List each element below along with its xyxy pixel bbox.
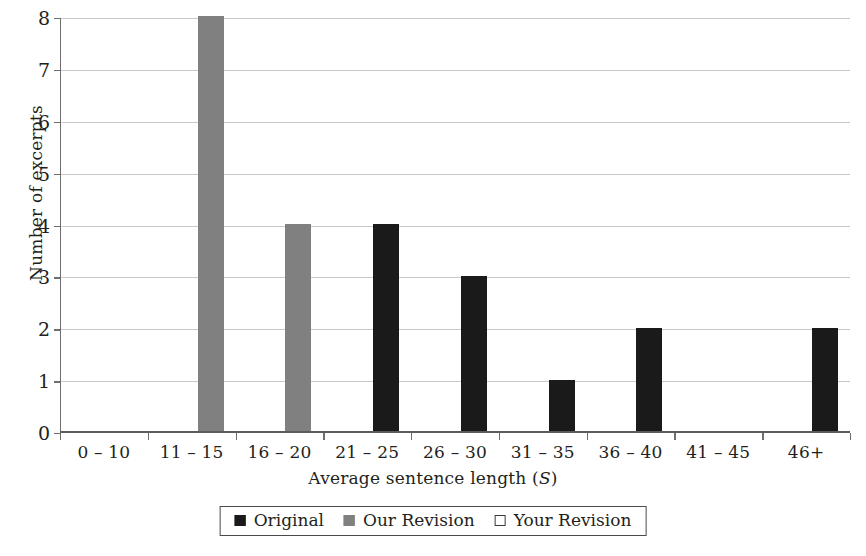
bar: [636, 328, 662, 432]
bar: [812, 328, 838, 432]
legend-label: Your Revision: [514, 512, 632, 529]
legend-entry: Our Revision: [344, 512, 475, 529]
x-axis-tick-label: 36 – 40: [599, 444, 663, 461]
bar: [198, 16, 224, 431]
y-axis-tick-label: 7: [38, 60, 50, 79]
gridline: [60, 329, 850, 330]
legend: OriginalOur RevisionYour Revision: [220, 506, 647, 536]
y-axis-line: [60, 18, 61, 433]
legend-entry: Your Revision: [495, 512, 632, 529]
bar: [285, 224, 311, 432]
bar: [549, 380, 575, 432]
x-axis-title-tail: ): [551, 468, 558, 488]
gridline: [60, 122, 850, 123]
gridline: [60, 381, 850, 382]
x-axis-line: [60, 431, 850, 433]
y-axis-tick-label: 1: [38, 372, 50, 391]
x-axis-tick-label: 0 – 10: [77, 444, 130, 461]
bar-chart-figure: Number of excerpts 012345678 0 – 1011 – …: [0, 0, 866, 556]
x-axis-tick-mark: [762, 433, 763, 440]
y-axis-tick-label: 5: [38, 164, 50, 183]
x-axis-tick-label: 16 – 20: [247, 444, 311, 461]
y-axis-tick-label: 2: [38, 320, 50, 339]
legend-label: Our Revision: [363, 512, 475, 529]
x-axis-tick-mark: [411, 433, 412, 440]
y-axis-tick-label: 3: [38, 268, 50, 287]
legend-swatch-icon: [344, 515, 355, 526]
gridline: [60, 277, 850, 278]
legend-swatch-icon: [235, 515, 246, 526]
y-axis-tick-label: 4: [38, 216, 50, 235]
y-axis-tick-label: 6: [38, 112, 50, 131]
x-axis-tick-mark: [236, 433, 237, 440]
x-axis-tick-mark: [323, 433, 324, 440]
x-axis-tick-mark: [850, 433, 851, 440]
x-axis-tick-mark: [148, 433, 149, 440]
bar: [461, 276, 487, 432]
x-axis-tick-label: 46+: [788, 444, 824, 461]
legend-label: Original: [254, 512, 324, 529]
x-axis-title-variable: S: [539, 468, 551, 488]
x-axis-title: Average sentence length (S): [0, 468, 866, 488]
x-axis-tick-label: 21 – 25: [335, 444, 399, 461]
x-axis-title-text: Average sentence length (: [308, 468, 539, 488]
x-axis-tick-mark: [60, 433, 61, 440]
x-axis-tick-label: 11 – 15: [160, 444, 224, 461]
x-axis-tick-mark: [674, 433, 675, 440]
bar: [373, 224, 399, 432]
y-axis-tick-label: 0: [38, 424, 50, 443]
x-axis-tick-label: 31 – 35: [511, 444, 575, 461]
plot-area: 012345678 0 – 1011 – 1516 – 2021 – 2526 …: [60, 18, 850, 433]
x-axis-tick-mark: [587, 433, 588, 440]
legend-swatch-icon: [495, 515, 506, 526]
legend-entry: Original: [235, 512, 324, 529]
x-axis-tick-label: 26 – 30: [423, 444, 487, 461]
gridline: [60, 18, 850, 19]
gridline: [60, 226, 850, 227]
x-axis-tick-mark: [499, 433, 500, 440]
x-axis-tick-label: 41 – 45: [686, 444, 750, 461]
gridline: [60, 174, 850, 175]
gridline: [60, 70, 850, 71]
y-axis-tick-label: 8: [38, 9, 50, 28]
